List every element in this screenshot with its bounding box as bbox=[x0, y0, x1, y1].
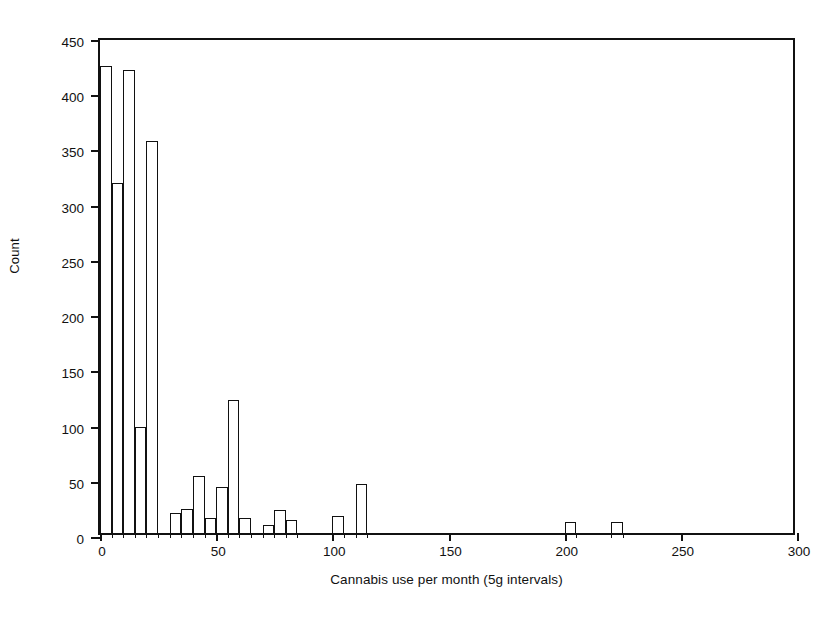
x-tick-minor bbox=[274, 533, 275, 538]
x-tick-minor bbox=[356, 533, 357, 538]
histogram-bar bbox=[181, 509, 193, 533]
y-tick: 350 bbox=[91, 150, 100, 152]
x-tick: 250 bbox=[681, 533, 683, 541]
histogram-bar bbox=[611, 522, 623, 533]
x-tick-minor bbox=[123, 533, 124, 538]
x-tick-label: 300 bbox=[788, 544, 811, 559]
y-tick: 200 bbox=[91, 316, 100, 318]
x-tick: 300 bbox=[797, 533, 799, 541]
y-tick-label: 200 bbox=[61, 311, 84, 326]
histogram-bar bbox=[332, 516, 344, 533]
x-tick-minor bbox=[135, 533, 136, 538]
x-tick-minor bbox=[263, 533, 264, 538]
x-tick: 100 bbox=[332, 533, 334, 541]
histogram-bar bbox=[123, 70, 135, 533]
histogram-figure: Count 050100150200250300350400450 050100… bbox=[0, 0, 826, 621]
x-tick-minor bbox=[623, 533, 624, 538]
x-tick-minor bbox=[112, 533, 113, 538]
x-tick-minor bbox=[228, 533, 229, 538]
x-tick-minor bbox=[239, 533, 240, 538]
y-tick-label: 250 bbox=[61, 255, 84, 270]
histogram-bar bbox=[100, 66, 112, 533]
histogram-bar bbox=[135, 427, 147, 533]
x-tick-minor bbox=[158, 533, 159, 538]
x-tick-minor bbox=[251, 533, 252, 538]
x-tick-minor bbox=[181, 533, 182, 538]
y-tick-label: 50 bbox=[69, 476, 84, 491]
x-tick: 200 bbox=[565, 533, 567, 541]
x-tick-label: 150 bbox=[439, 544, 462, 559]
y-tick-label: 350 bbox=[61, 145, 84, 160]
x-tick-minor bbox=[611, 533, 612, 538]
x-axis-title: Cannabis use per month (5g intervals) bbox=[98, 572, 795, 587]
x-tick-label: 50 bbox=[211, 544, 226, 559]
histogram-bar bbox=[205, 518, 217, 533]
y-tick: 0 bbox=[91, 537, 100, 539]
y-tick: 100 bbox=[91, 427, 100, 429]
y-tick-label: 300 bbox=[61, 200, 84, 215]
histogram-bar bbox=[263, 525, 275, 533]
histogram-bar bbox=[170, 513, 182, 533]
y-tick: 400 bbox=[91, 95, 100, 97]
plot-area: 050100150200250300350400450 050100150200… bbox=[98, 38, 795, 535]
histogram-bar bbox=[228, 400, 240, 533]
x-tick-label: 100 bbox=[323, 544, 346, 559]
y-tick-label: 400 bbox=[61, 90, 84, 105]
histogram-bar bbox=[565, 522, 577, 533]
y-tick: 300 bbox=[91, 206, 100, 208]
y-tick: 150 bbox=[91, 371, 100, 373]
y-tick-label: 0 bbox=[76, 532, 84, 547]
y-tick: 250 bbox=[91, 261, 100, 263]
histogram-bar bbox=[274, 510, 286, 533]
x-tick: 50 bbox=[216, 533, 218, 541]
histogram-bar bbox=[239, 518, 251, 533]
histogram-bar bbox=[112, 183, 124, 533]
x-tick-minor bbox=[146, 533, 147, 538]
histogram-bar bbox=[216, 487, 228, 533]
x-tick-minor bbox=[297, 533, 298, 538]
x-tick-label: 200 bbox=[555, 544, 578, 559]
histogram-bar bbox=[193, 476, 205, 533]
x-tick-minor bbox=[286, 533, 287, 538]
x-tick-minor bbox=[170, 533, 171, 538]
y-tick: 50 bbox=[91, 482, 100, 484]
y-tick: 450 bbox=[91, 40, 100, 42]
x-tick-minor bbox=[367, 533, 368, 538]
y-axis-title: Count bbox=[7, 196, 22, 316]
y-tick-label: 150 bbox=[61, 366, 84, 381]
x-tick-label: 0 bbox=[98, 544, 106, 559]
y-tick-label: 100 bbox=[61, 421, 84, 436]
histogram-bar bbox=[356, 484, 368, 533]
x-tick-minor bbox=[205, 533, 206, 538]
histogram-bar bbox=[146, 141, 158, 533]
histogram-bar bbox=[286, 520, 298, 533]
x-tick-minor bbox=[576, 533, 577, 538]
x-tick-label: 250 bbox=[672, 544, 695, 559]
x-tick-minor bbox=[344, 533, 345, 538]
x-tick: 0 bbox=[100, 533, 102, 541]
x-tick: 150 bbox=[449, 533, 451, 541]
x-tick-minor bbox=[193, 533, 194, 538]
y-tick-label: 450 bbox=[61, 35, 84, 50]
